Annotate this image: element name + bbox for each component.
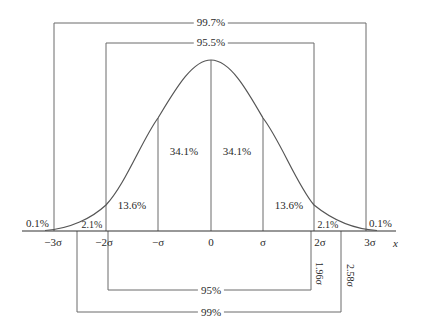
label-tail-right: 0.1%	[369, 218, 392, 229]
tick-minus-sigma: −σ	[152, 237, 164, 248]
label-tail-left: 0.1%	[26, 218, 49, 229]
label-95-5-percent: 95.5%	[194, 37, 228, 48]
label-region-right-2: 2.1%	[318, 220, 339, 230]
label-99-7-percent: 99.7%	[194, 17, 228, 28]
tick-2-sigma: 2σ	[314, 237, 325, 248]
tick-minus-3-sigma: −3σ	[44, 237, 62, 248]
label-region-right-13: 13.6%	[275, 200, 303, 211]
tick-3-sigma: 3σ	[364, 237, 375, 248]
label-region-left-13: 13.6%	[118, 200, 146, 211]
label-95-percent: 95%	[198, 285, 224, 296]
label-2-58-sigma: 2.58σ	[345, 264, 355, 287]
tick-sigma: σ	[260, 237, 266, 248]
label-99-percent: 99%	[198, 307, 224, 318]
label-region-left-2: 2.1%	[82, 220, 103, 230]
tick-zero: 0	[208, 237, 214, 248]
tick-minus-2-sigma: −2σ	[95, 237, 113, 248]
label-region-left-34: 34.1%	[170, 146, 198, 157]
bracket-99-7	[54, 23, 366, 231]
label-1-96-sigma: 1.96σ	[314, 262, 324, 285]
label-region-right-34: 34.1%	[223, 146, 251, 157]
x-axis-label: x	[393, 238, 398, 249]
